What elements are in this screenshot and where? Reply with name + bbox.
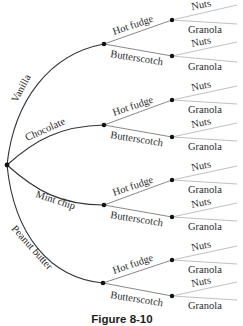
- label-granola: Granola: [188, 24, 222, 35]
- label-granola: Granola: [188, 141, 222, 152]
- node-p-butterscotch: [170, 294, 174, 298]
- branch-vanilla: [7, 44, 104, 165]
- label-chocolate: Chocolate: [23, 115, 67, 143]
- label-m-butterscotch: Butterscotch: [110, 209, 165, 228]
- label-p-hot-fudge: Hot fudge: [111, 252, 155, 276]
- node-m-butterscotch: [170, 215, 174, 219]
- node-mint-chip: [102, 203, 107, 208]
- label-nuts: Nuts: [190, 0, 212, 12]
- node-c-hot-fudge: [170, 98, 174, 102]
- label-c-butterscotch: Butterscotch: [110, 129, 165, 148]
- branch-peanut-butter: [7, 165, 103, 283]
- label-granola: Granola: [188, 221, 222, 232]
- label-granola: Granola: [188, 61, 222, 72]
- node-chocolate: [102, 123, 107, 128]
- label-peanut-butter: Peanut butter: [10, 223, 56, 272]
- node-p-hot-fudge: [170, 258, 174, 262]
- node-c-butterscotch: [170, 135, 174, 139]
- figure-caption: Figure 8-10: [91, 313, 152, 325]
- label-granola: Granola: [188, 184, 222, 195]
- label-nuts: Nuts: [190, 195, 212, 210]
- node-root: [5, 163, 10, 168]
- label-nuts: Nuts: [190, 274, 212, 289]
- label-p-butterscotch: Butterscotch: [110, 289, 165, 308]
- label-granola: Granola: [188, 264, 222, 275]
- branch-chocolate: [7, 125, 104, 165]
- node-peanut-butter: [101, 281, 106, 286]
- label-granola: Granola: [188, 104, 222, 115]
- node-vanilla: [102, 42, 107, 47]
- label-v-hot-fudge: Hot fudge: [111, 13, 155, 37]
- label-granola: Granola: [188, 300, 222, 311]
- label-nuts: Nuts: [190, 78, 212, 93]
- label-v-butterscotch: Butterscotch: [110, 48, 165, 67]
- label-nuts: Nuts: [190, 238, 212, 253]
- label-nuts: Nuts: [190, 34, 212, 49]
- label-nuts: Nuts: [190, 158, 212, 173]
- tree-diagram: Vanilla Chocolate Mint chip Peanut butte…: [0, 0, 243, 326]
- node-v-butterscotch: [170, 54, 174, 58]
- node-v-hot-fudge: [170, 18, 174, 22]
- label-mint-chip: Mint chip: [34, 188, 77, 211]
- node-m-hot-fudge: [170, 178, 174, 182]
- label-nuts: Nuts: [190, 115, 212, 130]
- label-vanilla: Vanilla: [9, 72, 33, 104]
